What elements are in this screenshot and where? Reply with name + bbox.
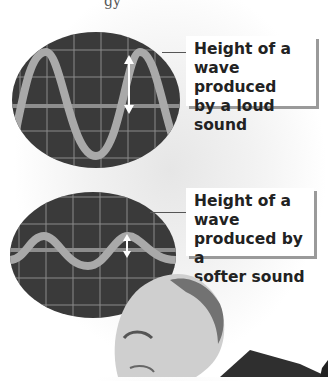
label-line: wave produced — [194, 59, 308, 97]
man-photo — [100, 268, 328, 381]
label-soft: Height of a wave produced by a softer so… — [186, 188, 314, 256]
oscilloscope-loud — [12, 32, 180, 168]
label-line: Height of a — [194, 40, 308, 59]
heading-fragment: gy — [104, 0, 121, 9]
leader-line-soft — [150, 212, 186, 213]
label-line: by a loud sound — [194, 97, 308, 135]
label-loud: Height of a wave produced by a loud soun… — [186, 36, 316, 106]
label-line: produced by a — [194, 230, 306, 268]
leader-line-loud — [162, 52, 186, 53]
label-line: Height of a wave — [194, 192, 306, 230]
